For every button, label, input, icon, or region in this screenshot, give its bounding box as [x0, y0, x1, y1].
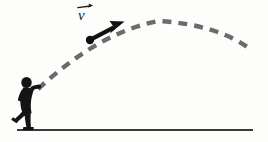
figure-canvas — [0, 0, 268, 142]
thrower-silhouette — [11, 77, 41, 130]
velocity-arrow-shaft — [91, 27, 114, 39]
trajectory-path — [38, 21, 250, 89]
projectile-figure: v — [0, 0, 268, 142]
